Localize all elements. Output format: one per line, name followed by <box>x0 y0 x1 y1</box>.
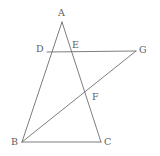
vertex-label-g: G <box>139 45 147 55</box>
segment-bg <box>22 51 136 142</box>
vertex-label-f: F <box>92 92 99 102</box>
segment-dg <box>47 51 136 52</box>
vertex-label-b: B <box>11 137 18 147</box>
vertex-label-c: C <box>104 137 111 147</box>
segment-ab <box>22 22 62 142</box>
geometry-canvas <box>0 0 160 156</box>
vertex-label-d: D <box>36 44 44 54</box>
segment-layer <box>22 22 136 142</box>
segment-ac <box>62 22 101 142</box>
geometry-figure: A B C D E F G <box>0 0 160 156</box>
vertex-label-a: A <box>58 8 65 18</box>
vertex-label-e: E <box>72 40 79 50</box>
